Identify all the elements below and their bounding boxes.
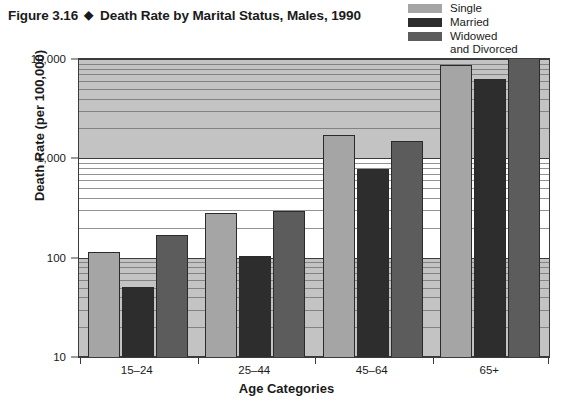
y-axis-title: Death Rate (per 100,000)	[32, 11, 47, 241]
legend-swatch	[408, 18, 442, 27]
x-axis-tick-label: 45–64	[356, 364, 388, 376]
legend-label: Widowedand Divorced	[450, 30, 518, 56]
figure-title: Figure 3.16◆Death Rate by Marital Status…	[8, 8, 361, 23]
bar	[239, 256, 271, 357]
y-axis-tick-mark	[71, 158, 78, 159]
legend-label-line2: and Divorced	[450, 43, 518, 56]
x-axis-tick-mark	[198, 358, 199, 364]
legend-item: Married	[408, 16, 518, 29]
bars-layer	[79, 59, 549, 357]
y-axis-tick-label: 10	[0, 351, 66, 363]
bar	[205, 213, 237, 357]
legend-item: Single	[408, 2, 518, 15]
legend-label: Married	[450, 16, 489, 29]
y-axis-tick-label: 100	[0, 252, 66, 264]
bar	[156, 235, 188, 357]
legend-item: Widowedand Divorced	[408, 30, 518, 56]
x-axis-tick-mark	[433, 358, 434, 364]
bar	[88, 252, 120, 357]
bar	[357, 169, 389, 357]
bar	[122, 287, 154, 357]
y-axis-tick-mark	[71, 357, 78, 358]
x-axis-tick-mark	[548, 358, 549, 364]
x-axis-tick-mark	[80, 358, 81, 364]
legend-swatch	[408, 4, 442, 13]
x-axis-tick-label: 15–24	[121, 364, 153, 376]
bar	[391, 141, 423, 357]
chart-legend: SingleMarriedWidowedand Divorced	[408, 2, 518, 56]
legend-swatch	[408, 32, 442, 41]
bar	[474, 79, 506, 357]
x-axis-title: Age Categories	[0, 381, 573, 396]
diamond-icon: ◆	[84, 8, 93, 22]
x-axis-tick-label: 25–44	[238, 364, 270, 376]
y-axis-tick-mark	[71, 257, 78, 258]
y-axis-tick-mark	[71, 59, 78, 60]
x-axis-tick-mark	[315, 358, 316, 364]
plot-area	[78, 58, 550, 358]
bar	[440, 65, 472, 357]
bar	[273, 211, 305, 357]
x-axis-tick-label: 65+	[479, 364, 499, 376]
bar	[508, 58, 540, 357]
figure-title-text: Death Rate by Marital Status, Males, 199…	[100, 8, 361, 23]
bar	[323, 135, 355, 357]
legend-label: Single	[450, 2, 482, 15]
